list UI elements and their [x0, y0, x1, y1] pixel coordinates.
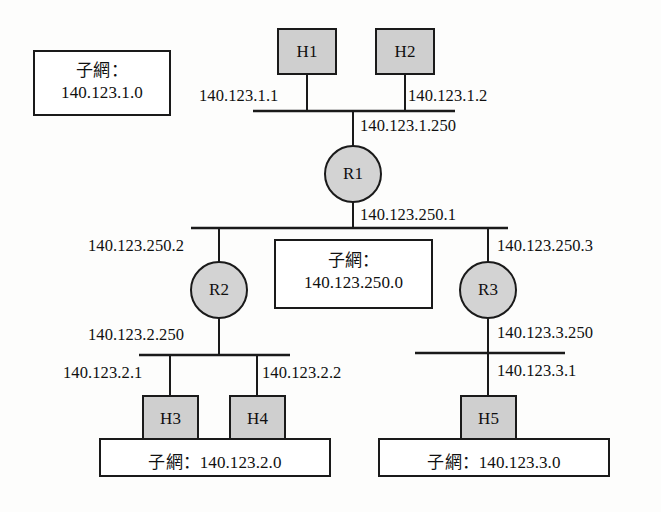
subnet-label-3: 子網：140.123.3.0: [379, 448, 609, 473]
address-label-r1-bottom: 140.123.250.1: [360, 205, 456, 225]
host-label-h1: H1: [278, 42, 336, 62]
subnet-label-250-line1: 子網：: [275, 250, 432, 272]
address-label-h2: 140.123.1.2: [408, 86, 487, 106]
address-label-h3: 140.123.2.1: [63, 363, 142, 383]
subnet-label-1: 子網： 140.123.1.0: [34, 60, 170, 104]
subnet-label-1-line1: 子網：: [34, 60, 170, 82]
address-label-r3-top: 140.123.250.3: [497, 236, 593, 256]
address-label-h5: 140.123.3.1: [497, 361, 576, 381]
subnet-label-250: 子網： 140.123.250.0: [275, 250, 432, 294]
address-label-r3-bottom: 140.123.3.250: [497, 323, 593, 343]
subnet-label-2: 子網：140.123.2.0: [100, 448, 330, 473]
network-diagram: H1 H2 H3 H4 H5 R1 R2 R3 140.123.1.1 140.…: [0, 0, 661, 512]
address-label-r2-top: 140.123.250.2: [88, 236, 184, 256]
host-label-h2: H2: [376, 42, 434, 62]
address-label-h1: 140.123.1.1: [199, 86, 278, 106]
subnet-label-1-line2: 140.123.1.0: [34, 82, 170, 104]
router-label-r1: R1: [325, 164, 381, 184]
router-label-r2: R2: [191, 280, 247, 300]
address-label-h4: 140.123.2.2: [262, 363, 341, 383]
address-label-r2-bottom: 140.123.2.250: [88, 325, 184, 345]
subnet-label-250-line2: 140.123.250.0: [275, 272, 432, 294]
host-label-h4: H4: [230, 409, 285, 429]
address-label-r1-top: 140.123.1.250: [360, 116, 456, 136]
host-label-h3: H3: [143, 409, 198, 429]
host-label-h5: H5: [461, 409, 516, 429]
router-label-r3: R3: [460, 280, 516, 300]
